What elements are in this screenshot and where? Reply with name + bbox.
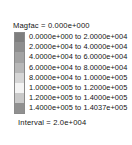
legend-row: 4.0000e+004 to 6.0000e+004 [14,52,126,62]
legend-range-label: 1.0000e+005 to 1.2000e+005 [29,83,127,93]
legend-color-swatch [14,103,25,113]
legend-color-swatch [14,52,25,62]
legend-range-label: 1.2000e+005 to 1.4000e+005 [29,93,127,103]
legend-range-label: 8.0000e+004 to 1.0000e+005 [29,73,127,83]
legend-row: 6.0000e+004 to 8.0000e+004 [14,63,126,73]
legend-color-swatch [14,63,25,73]
magfac-label: Magfac = 0.000e+000 [13,21,90,31]
legend-row: 2.0000e+004 to 4.0000e+004 [14,42,126,52]
legend-row: 1.4000e+005 to 1.4037e+005 [14,103,126,113]
legend-color-swatch [14,93,25,103]
interval-label: Interval = 2.0e+004 [18,118,86,128]
legend-range-label: 6.0000e+004 to 8.0000e+004 [29,63,127,73]
legend-color-swatch [14,32,25,42]
legend-color-swatch [14,42,25,52]
legend-row: 0.0000e+000 to 2.0000e+004 [14,32,126,42]
legend-range-label: 0.0000e+000 to 2.0000e+004 [29,32,127,42]
legend-range-label: 1.4000e+005 to 1.4037e+005 [29,103,127,113]
legend-row: 1.0000e+005 to 1.2000e+005 [14,83,126,93]
legend-color-swatch [14,73,25,83]
legend-color-swatch [14,83,25,93]
legend-row: 8.0000e+004 to 1.0000e+005 [14,73,126,83]
legend-row: 1.2000e+005 to 1.4000e+005 [14,93,126,103]
contour-legend-panel: Magfac = 0.000e+000 0.0000e+000 to 2.000… [0,0,132,145]
legend-range-label: 4.0000e+004 to 6.0000e+004 [29,52,127,62]
legend-rows: 0.0000e+000 to 2.0000e+004 2.0000e+004 t… [14,32,126,114]
legend-range-label: 2.0000e+004 to 4.0000e+004 [29,42,127,52]
